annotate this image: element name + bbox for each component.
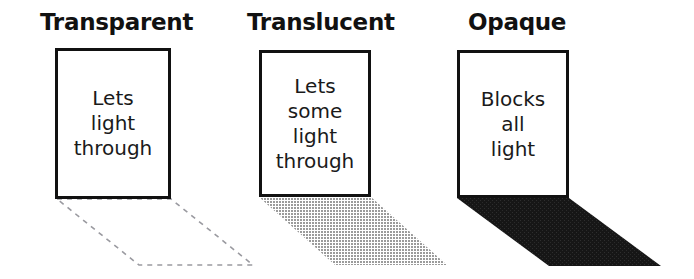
panel-title-transparent: Transparent bbox=[40, 8, 193, 36]
panel-title-translucent: Translucent bbox=[247, 8, 395, 36]
shadow-light-gray bbox=[259, 197, 447, 265]
shadow-outline-dashed bbox=[57, 199, 253, 265]
slab-translucent: Lets some light through bbox=[259, 50, 371, 197]
slab-label-opaque: Blocks all light bbox=[477, 87, 550, 162]
panel-title-opaque: Opaque bbox=[468, 8, 566, 36]
slab-transparent: Lets light through bbox=[55, 48, 171, 199]
shadow-solid-black bbox=[457, 198, 661, 266]
slab-label-transparent: Lets light through bbox=[70, 86, 157, 161]
slab-label-translucent: Lets some light through bbox=[272, 74, 359, 174]
slab-opaque: Blocks all light bbox=[457, 50, 569, 198]
light-transmission-diagram: Transparent Lets light through Transluce… bbox=[0, 0, 694, 279]
